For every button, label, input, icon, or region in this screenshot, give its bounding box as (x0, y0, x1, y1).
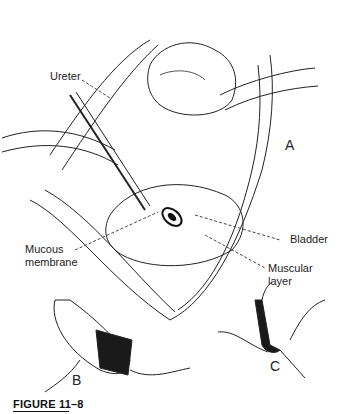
label-mucous-line2: membrane (25, 256, 78, 268)
panel-label-a: A (285, 137, 294, 153)
figure: Ureter A Bladder Mucous membrane Muscula… (0, 0, 343, 414)
label-mucous-line1: Mucous (25, 243, 64, 255)
surgical-illustration (0, 0, 343, 414)
label-bladder: Bladder (290, 233, 328, 245)
panel-label-b: B (72, 372, 81, 388)
panel-label-c: C (270, 358, 280, 374)
label-ureter: Ureter (50, 70, 81, 82)
label-muscular-line2: layer (268, 275, 292, 287)
caption-underline (13, 411, 69, 412)
label-muscular-line1: Muscular (268, 262, 313, 274)
figure-caption: FIGURE 11–8 (13, 398, 84, 410)
